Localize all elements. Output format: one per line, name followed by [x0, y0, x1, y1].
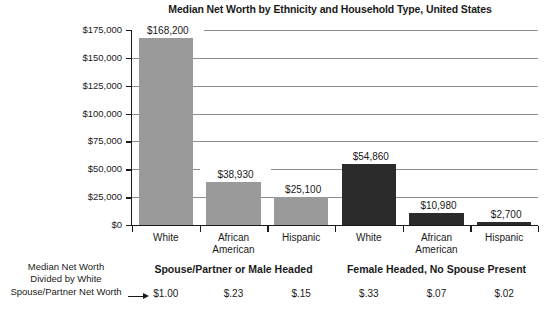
y-axis-tick-label-wrap: $175,000 [60, 24, 122, 36]
ratio-explainer-line-1: Median Net Worth [2, 261, 130, 273]
ratio-value: $.02 [470, 288, 538, 299]
x-axis-category-label: White [335, 232, 403, 244]
y-axis-tick-label: $0 [60, 219, 122, 230]
gridline [132, 114, 538, 115]
gridline [132, 197, 538, 198]
y-axis-tick-label-wrap: $150,000 [60, 52, 122, 64]
y-axis-tick-label: $50,000 [60, 163, 122, 174]
gridline [132, 169, 538, 170]
y-axis-tick-label-wrap: $125,000 [60, 80, 122, 92]
bar [477, 222, 531, 225]
bar [206, 182, 260, 225]
gridline [132, 141, 538, 142]
bar [139, 38, 193, 225]
chart-title: Median Net Worth by Ethnicity and Househ… [120, 3, 540, 15]
y-axis-tick-label-wrap: $75,000 [60, 135, 122, 147]
y-axis-tick-label-wrap: $100,000 [60, 108, 122, 120]
y-axis-tick-label: $175,000 [60, 24, 122, 35]
bar [342, 164, 396, 225]
ratio-explainer-line-2: Divided by White [2, 273, 130, 285]
bar-value-label: $10,980 [403, 200, 475, 211]
ratio-value: $.23 [200, 288, 268, 299]
bar-value-label: $2,700 [470, 209, 542, 220]
ratio-explainer: Median Net Worth Divided by White Spouse… [2, 261, 130, 298]
chart-container: Median Net Worth by Ethnicity and Househ… [0, 0, 545, 315]
ratio-value: $.07 [403, 288, 471, 299]
bar [409, 213, 463, 225]
bar [274, 197, 328, 225]
y-axis-tick-label: $125,000 [60, 80, 122, 91]
y-axis-tick-label-wrap: $50,000 [60, 163, 122, 175]
plot-area [132, 30, 538, 225]
ratio-explainer-line-3: Spouse/Partner Net Worth [2, 286, 130, 298]
x-axis-category-label: AfricanAmerican [403, 232, 471, 255]
ratio-value: $.15 [267, 288, 335, 299]
x-axis-category-label-line: African [200, 232, 268, 244]
y-axis-tick-label-wrap: $25,000 [60, 191, 122, 203]
y-axis-tick-label-wrap: $0 [60, 219, 122, 231]
y-axis-tick-label: $75,000 [60, 135, 122, 146]
x-axis-category-label-line: American [200, 244, 268, 256]
x-axis-category-label: Hispanic [267, 232, 335, 244]
bar-value-label: $168,200 [132, 25, 204, 36]
x-axis-tick [538, 226, 539, 232]
bar-value-label: $25,100 [267, 184, 339, 195]
x-axis-category-label: Hispanic [470, 232, 538, 244]
bar-value-label: $38,930 [200, 169, 272, 180]
gridline [132, 58, 538, 59]
ratio-value: $1.00 [132, 288, 200, 299]
x-axis-category-label-line: African [403, 232, 471, 244]
y-axis-tick-label: $25,000 [60, 191, 122, 202]
x-axis-category-label-line: Hispanic [267, 232, 335, 244]
x-axis-category-label-line: White [132, 232, 200, 244]
x-axis-category-label: AfricanAmerican [200, 232, 268, 255]
gridline [132, 86, 538, 87]
x-axis-category-label-line: American [403, 244, 471, 256]
bar-value-label: $54,860 [335, 151, 407, 162]
group-header: Female Headed, No Spouse Present [335, 263, 538, 275]
y-axis-tick-label: $100,000 [60, 108, 122, 119]
x-axis-category-label: White [132, 232, 200, 244]
group-header: Spouse/Partner or Male Headed [132, 263, 335, 275]
x-axis-category-label-line: Hispanic [470, 232, 538, 244]
x-axis-category-label-line: White [335, 232, 403, 244]
ratio-value: $.33 [335, 288, 403, 299]
y-axis-tick-label: $150,000 [60, 52, 122, 63]
